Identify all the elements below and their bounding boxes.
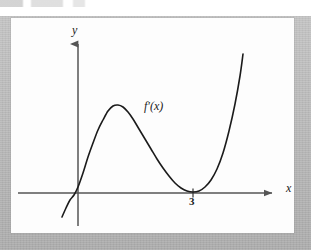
x-axis-label: x <box>286 182 291 194</box>
x-tick-label-3: 3 <box>189 196 195 207</box>
figure-screenshot: y x f′(x) 3 <box>0 0 311 250</box>
y-axis-label: y <box>72 24 77 36</box>
curve-label-f-prime: f′(x) <box>144 100 163 112</box>
graph-canvas <box>0 0 311 250</box>
